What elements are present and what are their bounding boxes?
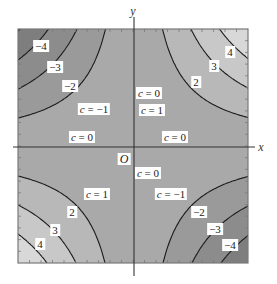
contour-label-q4-m1: c = −1 — [155, 188, 187, 200]
contour-label-q3-p3: 3 — [50, 224, 60, 236]
contour-label-q1-c0-upper: c = 0 — [136, 87, 162, 99]
contour-label-q4-m4: −4 — [222, 239, 238, 251]
q4-level--4-region — [249, 264, 261, 276]
contour-label-q2-m1: c = −1 — [78, 103, 110, 115]
q3-level-4-region — [8, 264, 20, 276]
contour-label-q3-p1: c = 1 — [84, 188, 110, 200]
contour-label-q1-p2: 2 — [191, 76, 201, 88]
contour-label-q4-m2: −2 — [191, 206, 207, 218]
contour-label-q1-c0-lower: c = 0 — [162, 131, 188, 143]
contour-label-q4-c0: c = 0 — [135, 167, 161, 179]
contour-label-q4-m3: −3 — [207, 223, 223, 235]
x-axis-label: x — [258, 140, 263, 155]
q1-level-4-region — [249, 18, 261, 30]
contour-label-q1-p4: 4 — [225, 46, 235, 58]
contour-label-q2-m2: −2 — [62, 80, 78, 92]
y-axis-label: y — [130, 4, 135, 19]
origin-label: O — [118, 153, 131, 165]
contour-label-q3-p4: 4 — [35, 238, 45, 250]
contour-label-q2-m4: −4 — [33, 40, 49, 52]
contour-label-q1-p1: c = 1 — [139, 104, 165, 116]
contour-label-q1-p3: 3 — [209, 60, 219, 72]
contour-label-q3-p2: 2 — [67, 206, 77, 218]
q2-level--4-region — [8, 18, 20, 30]
contour-label-q2-m3: −3 — [47, 61, 63, 73]
contour-label-q2-c0: c = 0 — [69, 131, 95, 143]
